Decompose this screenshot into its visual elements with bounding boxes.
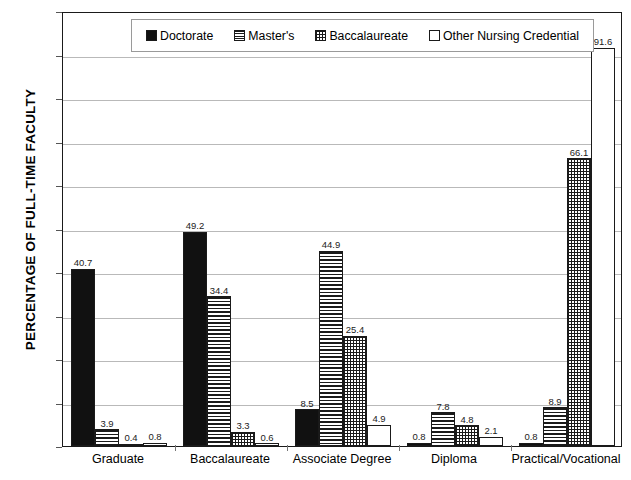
gridline bbox=[63, 100, 621, 101]
bar-value-label: 0.8 bbox=[524, 432, 537, 442]
bar-value-label: 44.9 bbox=[322, 240, 341, 250]
bar[interactable]: 8.5 bbox=[295, 409, 319, 446]
bar[interactable]: 7.8 bbox=[431, 412, 455, 446]
bar-value-label: 0.8 bbox=[148, 432, 161, 442]
bar-value-label: 0.4 bbox=[124, 433, 137, 443]
category-separator bbox=[511, 445, 512, 451]
bar-value-label: 91.6 bbox=[594, 37, 613, 47]
bar-value-label: 49.2 bbox=[186, 221, 205, 231]
x-category-label: Diploma bbox=[431, 452, 477, 466]
bar-value-label: 4.9 bbox=[372, 414, 385, 424]
legend-swatch-icon bbox=[234, 30, 245, 41]
bar[interactable]: 2.1 bbox=[479, 437, 503, 446]
legend-item[interactable]: Master's bbox=[234, 29, 294, 43]
plot-area: 40.73.90.40.849.234.43.30.68.544.925.44.… bbox=[62, 12, 622, 447]
legend-item-label: Other Nursing Credential bbox=[443, 29, 579, 43]
category-separator bbox=[399, 445, 400, 451]
bar-value-label: 3.9 bbox=[100, 419, 113, 429]
legend-item-label: Baccalaureate bbox=[329, 29, 408, 43]
gridline bbox=[63, 57, 621, 58]
bar-value-label: 8.9 bbox=[548, 397, 561, 407]
y-tick-mark bbox=[56, 447, 62, 448]
gridline bbox=[63, 144, 621, 145]
legend-item[interactable]: Baccalaureate bbox=[315, 29, 408, 43]
x-category-label: Practical/Vocational bbox=[511, 452, 620, 466]
legend: DoctorateMaster'sBaccalaureateOther Nurs… bbox=[131, 19, 594, 52]
bar-value-label: 8.5 bbox=[300, 399, 313, 409]
bar[interactable]: 3.3 bbox=[231, 432, 255, 446]
bar-value-label: 0.6 bbox=[260, 433, 273, 443]
bar[interactable]: 91.6 bbox=[591, 48, 615, 446]
bar[interactable]: 0.4 bbox=[119, 444, 143, 447]
y-axis-title: PERCENTAGE OF FULL-TIME FACULTY bbox=[23, 50, 38, 390]
gridline bbox=[63, 231, 621, 232]
bar-value-label: 66.1 bbox=[570, 148, 589, 158]
bar-chart: PERCENTAGE OF FULL-TIME FACULTY 10090807… bbox=[0, 0, 631, 480]
bar[interactable]: 49.2 bbox=[183, 232, 207, 446]
legend-item-label: Doctorate bbox=[160, 29, 213, 43]
bar-value-label: 0.8 bbox=[412, 432, 425, 442]
bar[interactable]: 66.1 bbox=[567, 158, 591, 446]
x-category-label: Associate Degree bbox=[293, 452, 392, 466]
bar[interactable]: 40.7 bbox=[71, 269, 95, 446]
bar-value-label: 2.1 bbox=[484, 426, 497, 436]
x-category-label: Graduate bbox=[92, 452, 144, 466]
bar-value-label: 4.8 bbox=[460, 415, 473, 425]
gridline bbox=[63, 187, 621, 188]
bar-value-label: 34.4 bbox=[210, 286, 229, 296]
legend-item[interactable]: Other Nursing Credential bbox=[429, 29, 579, 43]
bar[interactable]: 8.9 bbox=[543, 407, 567, 446]
bar-value-label: 3.3 bbox=[236, 421, 249, 431]
bar[interactable]: 34.4 bbox=[207, 296, 231, 446]
x-category-label: Baccalaureate bbox=[190, 452, 270, 466]
bar-value-label: 7.8 bbox=[436, 402, 449, 412]
bar[interactable]: 4.8 bbox=[455, 425, 479, 446]
bar-value-label: 40.7 bbox=[74, 258, 93, 268]
legend-item-label: Master's bbox=[248, 29, 294, 43]
bar[interactable]: 3.9 bbox=[95, 429, 119, 446]
bar[interactable]: 25.4 bbox=[343, 336, 367, 446]
legend-swatch-icon bbox=[429, 30, 440, 41]
bar[interactable]: 0.8 bbox=[407, 443, 431, 446]
bar-value-label: 25.4 bbox=[346, 325, 365, 335]
category-separator bbox=[287, 445, 288, 451]
bar[interactable]: 0.8 bbox=[519, 443, 543, 446]
category-separator bbox=[175, 445, 176, 451]
legend-swatch-icon bbox=[146, 30, 157, 41]
bar[interactable]: 0.6 bbox=[255, 443, 279, 446]
legend-item[interactable]: Doctorate bbox=[146, 29, 213, 43]
bar[interactable]: 44.9 bbox=[319, 251, 343, 446]
legend-swatch-icon bbox=[315, 30, 326, 41]
bar[interactable]: 0.8 bbox=[143, 443, 167, 446]
bar[interactable]: 4.9 bbox=[367, 425, 391, 446]
